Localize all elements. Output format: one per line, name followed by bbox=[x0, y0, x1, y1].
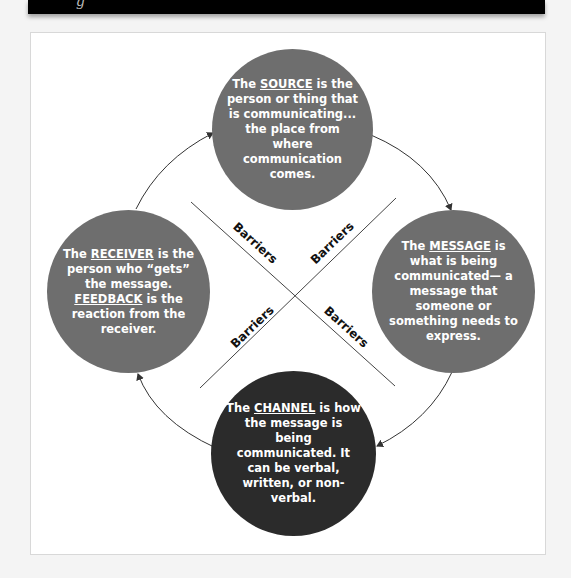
source-node: The SOURCE is the person or thing that i… bbox=[212, 49, 373, 210]
message-node: The MESSAGE is what is being communicate… bbox=[372, 210, 535, 373]
barrier-line-2 bbox=[200, 198, 396, 388]
source-text: The SOURCE is the person or thing that i… bbox=[226, 77, 359, 182]
channel-text: The CHANNEL is how the message is being … bbox=[225, 401, 362, 506]
receiver-text: The RECEIVER is the person who “gets” th… bbox=[61, 247, 196, 337]
arrow-receiver-to-source bbox=[136, 133, 213, 209]
arrow-channel-to-receiver bbox=[138, 374, 216, 448]
arrow-message-to-channel bbox=[377, 372, 452, 446]
receiver-node: The RECEIVER is the person who “gets” th… bbox=[47, 210, 210, 373]
arrow-source-to-message bbox=[371, 135, 451, 210]
message-text: The MESSAGE is what is being communicate… bbox=[386, 239, 521, 344]
barrier-line-1 bbox=[191, 202, 395, 386]
channel-node: The CHANNEL is how the message is being … bbox=[211, 371, 376, 536]
